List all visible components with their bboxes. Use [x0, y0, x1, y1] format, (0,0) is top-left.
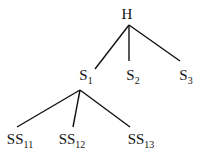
- node-SS11: SS11: [7, 132, 33, 150]
- node-label: SS: [7, 131, 24, 147]
- edge-H-S3: [129, 25, 180, 61]
- edge-H-S1: [95, 25, 129, 69]
- tree-edges: [0, 0, 202, 154]
- node-S3: S3: [179, 68, 192, 86]
- node-subscript: 1: [88, 75, 93, 86]
- node-subscript: 3: [188, 75, 193, 86]
- node-subscript: 11: [24, 139, 34, 150]
- node-label: H: [122, 6, 133, 22]
- node-SS13: SS13: [128, 132, 155, 150]
- edge-S1-SS13: [80, 90, 130, 127]
- node-subscript: 12: [75, 139, 85, 150]
- node-subscript: 2: [135, 75, 140, 86]
- node-label: SS: [128, 131, 145, 147]
- node-S2: S2: [126, 68, 139, 86]
- edge-S1-SS11: [17, 90, 80, 127]
- edge-S1-SS12: [73, 90, 80, 127]
- tree-diagram: HS1S2S3SS11SS12SS13: [0, 0, 202, 154]
- node-H: H: [122, 7, 133, 22]
- node-SS12: SS12: [59, 132, 86, 150]
- node-label: SS: [59, 131, 76, 147]
- node-subscript: 13: [144, 139, 154, 150]
- node-S1: S1: [79, 68, 92, 86]
